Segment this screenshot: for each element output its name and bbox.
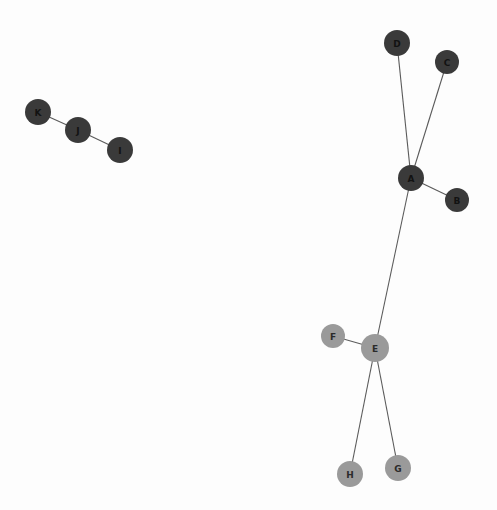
graph-node-A[interactable]: A	[398, 165, 424, 191]
node-circle-I[interactable]	[107, 137, 133, 163]
node-circle-F[interactable]	[321, 324, 345, 348]
graph-node-E[interactable]: E	[361, 334, 389, 362]
graph-edge-A-E	[375, 178, 411, 348]
graph-node-F[interactable]: F	[321, 324, 345, 348]
edge-layer	[38, 43, 457, 474]
node-circle-E[interactable]	[361, 334, 389, 362]
graph-node-K[interactable]: K	[25, 99, 51, 125]
graph-node-D[interactable]: D	[384, 30, 410, 56]
graph-node-G[interactable]: G	[385, 455, 411, 481]
graph-node-I[interactable]: I	[107, 137, 133, 163]
node-circle-K[interactable]	[25, 99, 51, 125]
graph-edge-E-G	[375, 348, 398, 468]
graph-node-B[interactable]: B	[445, 188, 469, 212]
network-graph-canvas: ABCDEFGHIJK	[0, 0, 497, 510]
network-graph-svg: ABCDEFGHIJK	[0, 0, 497, 510]
node-circle-H[interactable]	[337, 461, 363, 487]
graph-edge-C-A	[411, 62, 447, 178]
node-circle-G[interactable]	[385, 455, 411, 481]
graph-node-J[interactable]: J	[65, 117, 91, 143]
node-circle-C[interactable]	[435, 50, 459, 74]
graph-edge-D-A	[397, 43, 411, 178]
graph-node-H[interactable]: H	[337, 461, 363, 487]
graph-edge-E-H	[350, 348, 375, 474]
graph-node-C[interactable]: C	[435, 50, 459, 74]
node-circle-A[interactable]	[398, 165, 424, 191]
node-circle-J[interactable]	[65, 117, 91, 143]
node-circle-B[interactable]	[445, 188, 469, 212]
node-circle-D[interactable]	[384, 30, 410, 56]
